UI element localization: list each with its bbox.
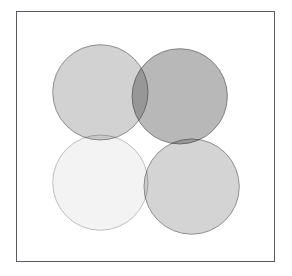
set-bottom-right	[144, 139, 239, 234]
plot-frame	[16, 11, 275, 262]
set-top-right	[132, 49, 227, 144]
figure-root	[0, 0, 292, 276]
venn-diagram	[17, 12, 274, 261]
set-bottom-left	[53, 135, 148, 230]
